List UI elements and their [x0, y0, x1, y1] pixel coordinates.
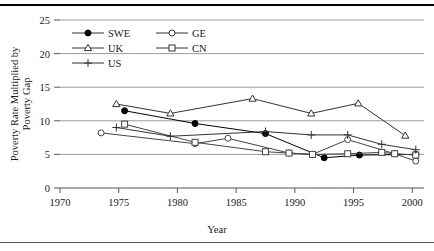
legend-label-ge: GE — [192, 28, 206, 39]
legend-entry-uk: UK — [72, 43, 124, 54]
y-tick-label-15: 15 — [40, 82, 51, 93]
data-point-us-1 — [166, 132, 174, 140]
data-point-uk-2 — [249, 95, 256, 101]
data-point-cn-7 — [392, 151, 398, 157]
x-tick-label-1970: 1970 — [50, 197, 71, 208]
x-tick-label-1980: 1980 — [167, 197, 188, 208]
legend-entry-swe: SWE — [72, 28, 130, 39]
series-ge — [98, 130, 419, 164]
y-tick-label-5: 5 — [45, 149, 50, 160]
legend-marker-swe — [85, 30, 91, 36]
data-point-swe-1 — [192, 120, 198, 126]
line-chart-plot: 0510152025 1970197519801985199019952000 … — [0, 0, 434, 251]
legend-entry-cn: CN — [156, 43, 207, 54]
legend-marker-cn — [169, 45, 175, 51]
series-line-swe — [125, 111, 416, 158]
series-group — [98, 95, 420, 164]
data-point-uk-5 — [402, 132, 409, 138]
data-point-cn-3 — [286, 150, 292, 156]
data-point-us-3 — [307, 131, 315, 139]
y-tick-label-0: 0 — [45, 183, 50, 194]
data-point-ge-7 — [413, 158, 419, 164]
y-tick-label-10: 10 — [40, 116, 51, 127]
data-point-ge-2 — [225, 135, 231, 141]
chart-legend: SWEGEUKCNUS — [72, 28, 207, 69]
y-tick-labels-group: 0510152025 — [40, 15, 61, 194]
legend-marker-ge — [169, 30, 175, 36]
x-tick-labels-group: 1970197519801985199019952000 — [50, 188, 423, 208]
series-line-ge — [101, 133, 416, 161]
y-tick-label-25: 25 — [40, 15, 51, 26]
legend-label-uk: UK — [108, 43, 124, 54]
legend-label-cn: CN — [192, 43, 207, 54]
data-point-ge-0 — [98, 130, 104, 136]
series-cn — [122, 121, 419, 158]
bottom-divider-rule — [0, 242, 434, 243]
data-point-uk-0 — [113, 100, 120, 106]
data-point-cn-6 — [379, 149, 385, 155]
x-tick-label-2000: 2000 — [402, 197, 423, 208]
data-point-cn-2 — [262, 149, 268, 155]
x-tick-label-1975: 1975 — [108, 197, 129, 208]
data-point-swe-0 — [122, 108, 128, 114]
y-tick-label-20: 20 — [40, 49, 51, 60]
legend-label-us: US — [108, 58, 122, 69]
x-tick-label-1995: 1995 — [343, 197, 364, 208]
data-point-uk-4 — [355, 100, 362, 106]
data-point-swe-3 — [321, 155, 327, 161]
legend-label-swe: SWE — [108, 28, 130, 39]
data-point-us-0 — [112, 124, 120, 132]
legend-entry-us: US — [72, 58, 122, 69]
x-tick-label-1985: 1985 — [226, 197, 247, 208]
legend-marker-us — [84, 59, 92, 67]
figure-container: Poverty Rate Multiplied by Poverty Gap 0… — [0, 0, 434, 251]
data-point-cn-5 — [345, 151, 351, 157]
legend-entry-ge: GE — [156, 28, 206, 39]
x-axis-title: Year — [0, 224, 434, 235]
data-point-cn-0 — [122, 121, 128, 127]
data-point-cn-4 — [309, 151, 315, 157]
data-point-us-5 — [378, 140, 386, 148]
series-line-cn — [125, 124, 416, 155]
data-point-cn-1 — [192, 139, 198, 145]
x-tick-label-1990: 1990 — [284, 197, 305, 208]
